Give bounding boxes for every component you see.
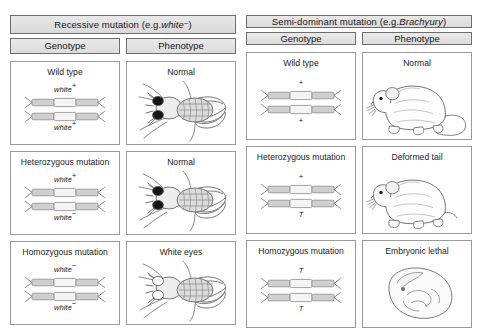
chromosome-icon xyxy=(23,290,107,303)
drosophila-illustration xyxy=(133,168,229,234)
phenotype-illustration xyxy=(127,78,235,144)
allele-top-superscript: + xyxy=(72,81,76,90)
chromosome-pair: + T xyxy=(247,163,355,233)
allele-bottom-text: white xyxy=(54,213,72,222)
allele-bottom-text: T xyxy=(299,210,304,219)
allele-label-top: white+ xyxy=(54,176,76,185)
phenotype-cell: Deformed tail xyxy=(362,146,472,234)
phenotype-label: Normal xyxy=(403,58,431,68)
embryo-illustration xyxy=(367,261,467,323)
phenotype-label: Normal xyxy=(167,157,195,167)
phenotype-illustration xyxy=(363,257,471,327)
chromosome-pair: white+ white− xyxy=(11,168,119,234)
table-row: Homozygous mutationT TEmbryonic lethal xyxy=(246,240,472,328)
allele-top-text: + xyxy=(299,172,303,181)
chromosome-icon xyxy=(259,183,343,196)
phenotype-label: Normal xyxy=(167,67,195,77)
allele-bottom-text: T xyxy=(299,304,304,313)
phenotype-cell: Normal xyxy=(126,151,236,235)
chromosome-icon xyxy=(259,89,343,102)
allele-label-bottom: white+ xyxy=(54,124,76,133)
allele-top-text: white xyxy=(54,265,72,274)
allele-label-top: + xyxy=(299,173,303,182)
panel-semi-dominant: Semi-dominant mutation (e.g. Brachyury)G… xyxy=(246,15,472,325)
allele-label-bottom: white− xyxy=(54,304,76,313)
column-headers: GenotypePhenotype xyxy=(246,32,472,45)
phenotype-illustration xyxy=(127,258,235,324)
phenotype-label: White eyes xyxy=(160,247,203,257)
genotype-cell: Wild type+ + xyxy=(246,52,356,140)
allele-label-bottom: T xyxy=(299,305,304,314)
allele-top-superscript: + xyxy=(72,171,76,180)
panel-header-prefix: Semi-dominant mutation (e.g. xyxy=(272,16,399,27)
panel-header-gene-name: Brachyury xyxy=(399,16,443,27)
phenotype-cell: Embryonic lethal xyxy=(362,240,472,328)
column-headers: GenotypePhenotype xyxy=(10,38,236,55)
table-row: Homozygous mutationwhite− white−White ey… xyxy=(10,241,236,325)
chromosome-pair: + + xyxy=(247,69,355,139)
panel-header-prefix: Recessive mutation (e.g. xyxy=(54,19,161,30)
table-row: Heterozygous mutationwhite+ white−Normal xyxy=(10,151,236,235)
allele-label-top: white+ xyxy=(54,86,76,95)
genotype-label: Homozygous mutation xyxy=(22,247,108,257)
panel-header-suffix: ) xyxy=(443,16,446,27)
genotype-cell: Homozygous mutationwhite− white− xyxy=(10,241,120,325)
panel-header-recessive: Recessive mutation (e.g. white−) xyxy=(10,15,236,34)
genotype-label: Wild type xyxy=(283,58,318,68)
allele-top-text: + xyxy=(299,78,303,87)
allele-bottom-superscript: + xyxy=(72,119,76,128)
panel-header-suffix: ) xyxy=(188,19,191,30)
column-header-genotype: Genotype xyxy=(246,32,356,45)
allele-bottom-text: white xyxy=(54,123,72,132)
drosophila-illustration xyxy=(133,78,229,144)
panel-header-gene-name: white xyxy=(161,19,184,30)
chromosome-icon xyxy=(23,276,107,289)
phenotype-label: Embryonic lethal xyxy=(385,246,449,256)
allele-label-bottom: white− xyxy=(54,214,76,223)
chromosome-pair: white+ white+ xyxy=(11,78,119,144)
phenotype-label: Deformed tail xyxy=(391,152,442,162)
allele-label-bottom: + xyxy=(299,117,303,126)
column-header-genotype: Genotype xyxy=(10,38,120,55)
phenotype-illustration xyxy=(363,69,471,143)
table-row: Wild typewhite+ white+Normal xyxy=(10,61,236,145)
phenotype-illustration xyxy=(127,168,235,234)
phenotype-cell: White eyes xyxy=(126,241,236,325)
allele-bottom-superscript: − xyxy=(72,299,76,308)
allele-bottom-superscript: − xyxy=(72,209,76,218)
panels-container: Recessive mutation (e.g. white−)Genotype… xyxy=(10,15,472,325)
chromosome-pair: white− white− xyxy=(11,258,119,324)
phenotype-illustration xyxy=(363,163,471,237)
allele-top-text: T xyxy=(299,266,304,275)
chromosome-icon xyxy=(259,277,343,290)
allele-top-text: white xyxy=(54,85,72,94)
rows-container: Wild typewhite+ white+Normal xyxy=(10,61,236,325)
chromosome-icon xyxy=(259,103,343,116)
column-header-phenotype: Phenotype xyxy=(126,38,236,55)
chromosome-icon xyxy=(23,110,107,123)
genotype-label: Homozygous mutation xyxy=(258,246,344,256)
drosophila-illustration xyxy=(133,258,229,324)
panel-header-semi-dominant: Semi-dominant mutation (e.g. Brachyury) xyxy=(246,15,472,28)
allele-label-top: T xyxy=(299,267,304,276)
allele-label-top: white− xyxy=(54,266,76,275)
genotype-label: Heterozygous mutation xyxy=(21,157,109,167)
chromosome-pair: T T xyxy=(247,257,355,327)
table-row: Heterozygous mutation+ TDeformed tail xyxy=(246,146,472,234)
chromosome-icon xyxy=(23,96,107,109)
figure-root: Recessive mutation (e.g. white−)Genotype… xyxy=(0,0,482,335)
chromosome-icon xyxy=(259,197,343,210)
phenotype-cell: Normal xyxy=(362,52,472,140)
genotype-cell: Heterozygous mutationwhite+ white− xyxy=(10,151,120,235)
phenotype-cell: Normal xyxy=(126,61,236,145)
column-header-phenotype: Phenotype xyxy=(362,32,472,45)
allele-bottom-text: white xyxy=(54,303,72,312)
allele-bottom-text: + xyxy=(299,116,303,125)
chromosome-icon xyxy=(23,186,107,199)
genotype-label: Wild type xyxy=(47,67,82,77)
table-row: Wild type+ +Normal xyxy=(246,52,472,140)
rows-container: Wild type+ +Normal xyxy=(246,52,472,328)
chromosome-icon xyxy=(23,200,107,213)
genotype-label: Heterozygous mutation xyxy=(257,152,345,162)
genotype-cell: Heterozygous mutation+ T xyxy=(246,146,356,234)
